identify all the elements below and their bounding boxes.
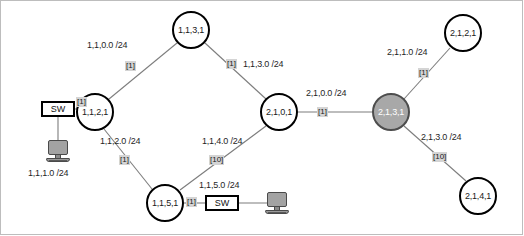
link-metric-badge: [10] [432, 152, 447, 162]
network-diagram-canvas: 1,1,3,1 1,1,2,1 1,1,5,1 2,1,0,1 2,1,3,1 … [0, 0, 524, 236]
network-label: 1,1,1.0 /24 [28, 168, 68, 178]
router-label: 1,1,3,1 [178, 25, 204, 35]
network-label: 1,1,2.0 /24 [100, 136, 140, 146]
network-label: 2,1,3.0 /24 [421, 132, 461, 142]
network-label: 2,1,0.0 /24 [306, 88, 346, 98]
link-metric-badge: [1] [317, 107, 328, 117]
router-node[interactable]: 2,1,2,1 [444, 14, 482, 52]
router-node[interactable]: 2,1,4,1 [459, 177, 497, 215]
link-metric-badge: [1] [186, 197, 197, 207]
monitor-icon [267, 192, 287, 207]
link-metric-badge: [1] [125, 61, 136, 71]
router-label: 1,1,5,1 [152, 198, 178, 208]
router-node[interactable]: 1,1,5,1 [146, 184, 184, 222]
link-metric-badge: [10] [209, 155, 224, 165]
monitor-base-shadow [49, 160, 67, 161]
router-label: 2,1,0,1 [266, 107, 292, 117]
router-node[interactable]: 1,1,3,1 [172, 11, 210, 49]
link-metric-badge: [1] [76, 97, 87, 107]
monitor-base-shadow [268, 212, 286, 213]
network-label: 2,1,1.0 /24 [387, 47, 427, 57]
switch-node[interactable]: SW [205, 195, 239, 211]
switch-label: SW [215, 198, 230, 208]
switch-label: SW [51, 104, 66, 114]
router-label: 1,1,2,1 [82, 107, 108, 117]
router-label: 2,1,4,1 [465, 191, 491, 201]
network-label: 1,1,3.0 /24 [243, 59, 283, 69]
link-metric-badge: [1] [119, 155, 130, 165]
network-label: 1,1,5.0 /24 [199, 180, 239, 190]
link-metric-badge: [1] [418, 68, 429, 78]
network-label: 1,1,0.0 /24 [87, 40, 127, 50]
host-computer[interactable] [46, 140, 70, 163]
router-node-highlighted[interactable]: 2,1,3,1 [372, 93, 410, 131]
host-computer[interactable] [265, 192, 289, 215]
link-1-1-3-0 [205, 43, 266, 99]
switch-node[interactable]: SW [41, 101, 75, 117]
link-metric-badge: [1] [226, 59, 237, 69]
router-label: 2,1,2,1 [450, 28, 476, 38]
router-label: 2,1,3,1 [378, 107, 404, 117]
monitor-icon [48, 140, 68, 155]
network-label: 1,1,4.0 /24 [202, 136, 242, 146]
router-node[interactable]: 2,1,0,1 [260, 93, 298, 131]
link-1-1-0-0 [109, 43, 177, 99]
